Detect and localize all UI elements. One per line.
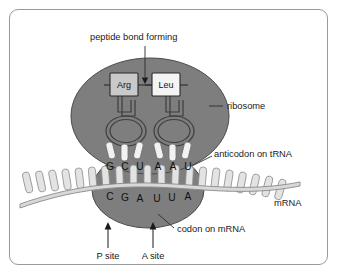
codon-base-5: U	[168, 192, 175, 203]
anticodon-base-2: C	[121, 161, 128, 172]
label-codon: codon on mRNA	[177, 224, 246, 234]
label-ribosome: ribosome	[227, 101, 265, 111]
label-anticodon: anticodon on tRNA	[214, 149, 293, 159]
trna-a-site-anticodon-prongs	[153, 141, 192, 161]
anticodon-base-3: U	[136, 161, 143, 172]
codon-base-1: C	[106, 191, 113, 202]
label-peptide-bond: peptide bond forming	[90, 32, 177, 42]
amino-acid-label-arg: Arg	[117, 80, 131, 90]
anticodon-base-6: U	[184, 161, 191, 172]
codon-base-3: A	[137, 193, 144, 204]
translation-diagram: Arg Leu G C U A A U C G A U U A peptide …	[0, 0, 338, 275]
codon-base-2: G	[121, 192, 129, 203]
p-site-pointer	[105, 222, 112, 248]
diagram-canvas: Arg Leu G C U A A U C G A U U A peptide …	[0, 0, 338, 275]
codon-base-4: U	[153, 193, 160, 204]
label-mrna: mRNA	[274, 198, 302, 208]
codon-base-6: A	[185, 191, 192, 202]
trna-p-site-anticodon-prongs	[105, 141, 144, 161]
anticodon-base-4: A	[155, 161, 162, 172]
anticodon-base-1: G	[106, 161, 114, 172]
anticodon-base-5: A	[170, 161, 177, 172]
ribosome-large-subunit	[71, 58, 229, 174]
label-a-site: A site	[142, 251, 165, 261]
label-p-site: P site	[96, 251, 119, 261]
amino-acid-label-leu: Leu	[158, 80, 173, 90]
